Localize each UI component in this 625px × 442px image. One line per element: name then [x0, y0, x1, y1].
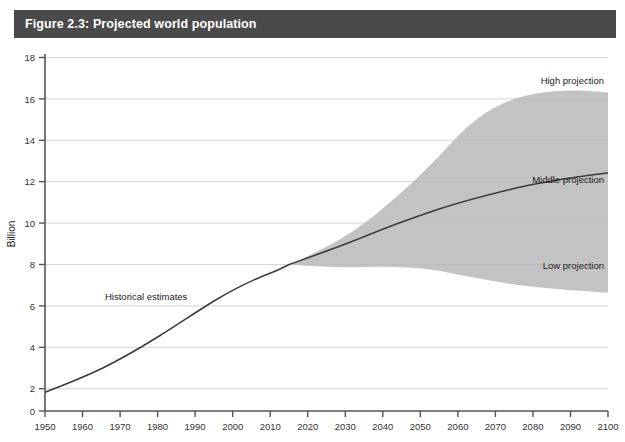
- x-tick-label: 1990: [185, 421, 206, 432]
- y-tick-label: 14: [24, 135, 35, 146]
- x-tick-label: 2060: [447, 421, 468, 432]
- figure-title-bar: Figure 2.3: Projected world population: [14, 10, 616, 38]
- y-axis-title: Billion: [6, 221, 17, 248]
- y-tick-label: 6: [30, 301, 35, 312]
- x-tick-label: 2010: [260, 421, 281, 432]
- y-tick-label: 10: [24, 218, 35, 229]
- annotation-middle-projection: Middle projection: [532, 174, 604, 185]
- annotation-low-projection: Low projection: [543, 260, 604, 271]
- y-tick-label: 8: [30, 259, 35, 270]
- x-tick-label: 2020: [297, 421, 318, 432]
- annotation-high-projection: High projection: [541, 75, 604, 86]
- x-tick-label: 2090: [560, 421, 581, 432]
- x-tick-label: 2100: [597, 421, 618, 432]
- x-tick-label: 2000: [222, 421, 243, 432]
- y-tick-label: 16: [24, 94, 35, 105]
- y-tick-label: 4: [30, 342, 35, 353]
- x-tick-label: 2030: [335, 421, 356, 432]
- figure-container: Figure 2.3: Projected world population: [0, 0, 625, 442]
- y-tick-label: 2: [30, 383, 35, 394]
- chart-plot-area: 18 16 14 12 10 8 6 4 2 0 Billion: [0, 38, 625, 442]
- x-tick-label: 2040: [372, 421, 393, 432]
- x-tick-label: 1980: [147, 421, 168, 432]
- x-tick-label: 2080: [522, 421, 543, 432]
- annotation-historical-estimates: Historical estimates: [105, 291, 188, 302]
- y-tick-label: 12: [24, 176, 35, 187]
- population-projection-chart: 18 16 14 12 10 8 6 4 2 0 Billion: [0, 38, 625, 442]
- x-tick-label: 1960: [72, 421, 93, 432]
- x-axis: 1950 1960 1970 1980 1990 2000 2010 2020 …: [34, 411, 618, 432]
- y-tick-label: 0: [30, 406, 35, 417]
- x-tick-label: 2070: [485, 421, 506, 432]
- x-tick-label: 2050: [410, 421, 431, 432]
- x-tick-label: 1950: [34, 421, 55, 432]
- y-axis: 18 16 14 12 10 8 6 4 2 0 Billion: [6, 52, 45, 417]
- figure-title: Figure 2.3: Projected world population: [14, 17, 257, 31]
- x-tick-label: 1970: [110, 421, 131, 432]
- y-tick-label: 18: [24, 52, 35, 63]
